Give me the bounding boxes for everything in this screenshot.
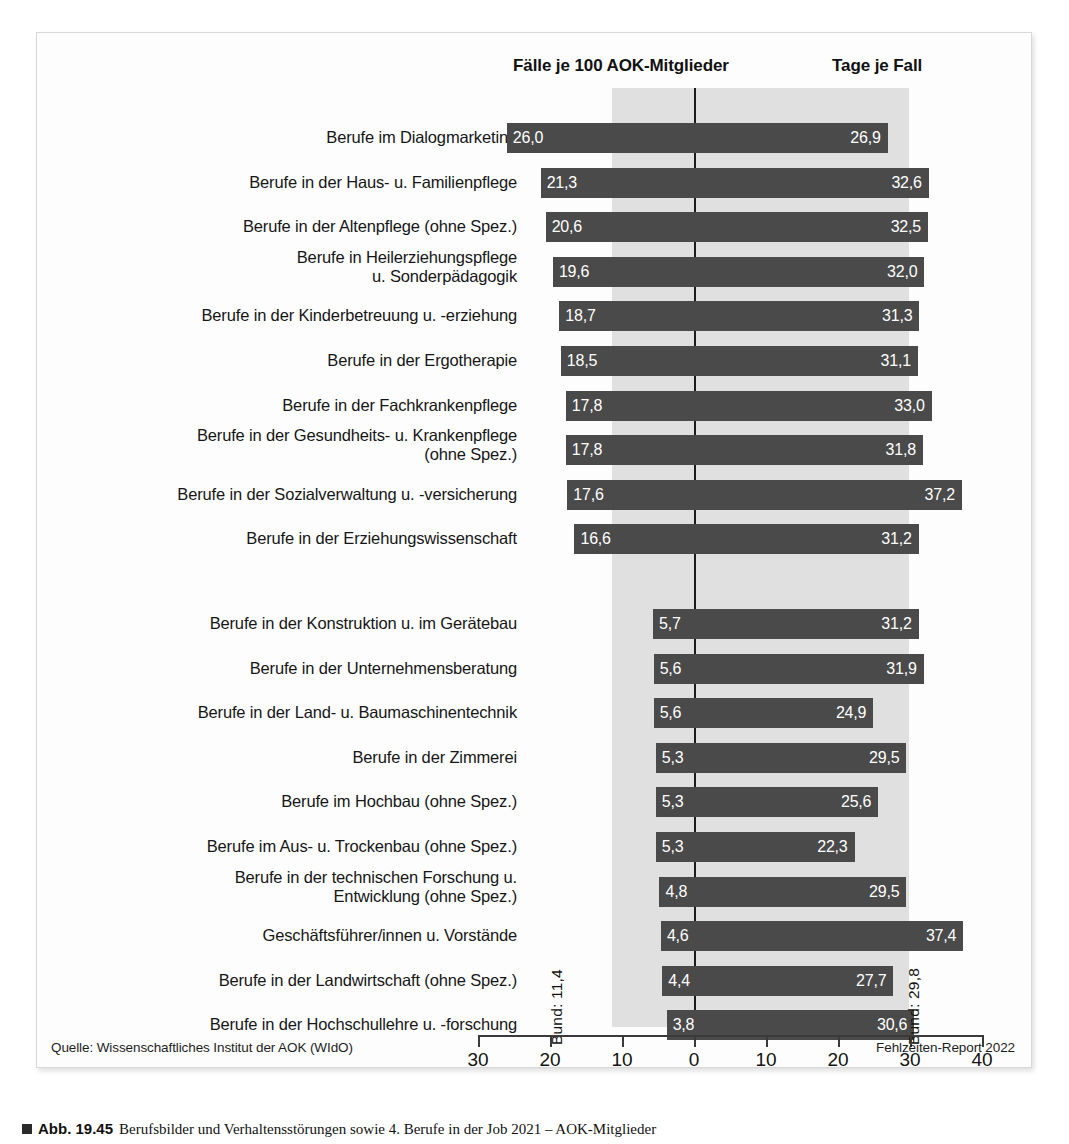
bar-tage: 32,0 bbox=[694, 257, 924, 287]
bar-tage: 33,0 bbox=[694, 391, 932, 421]
bar-faelle: 4,8 bbox=[659, 877, 694, 907]
category-label: Berufe im Aus- u. Trockenbau (ohne Spez.… bbox=[37, 837, 517, 856]
bar-tage: 27,7 bbox=[694, 966, 893, 996]
bar-value-faelle: 4,6 bbox=[667, 927, 689, 945]
bar-tage: 31,9 bbox=[694, 654, 924, 684]
bar-faelle: 18,5 bbox=[561, 346, 694, 376]
category-label: Berufe in der Landwirtschaft (ohne Spez.… bbox=[37, 971, 517, 990]
bar-value-tage: 27,7 bbox=[856, 972, 886, 990]
bar-tage: 24,9 bbox=[694, 698, 873, 728]
bar-value-faelle: 5,3 bbox=[662, 793, 684, 811]
bar-value-faelle: 5,6 bbox=[660, 660, 682, 678]
bar-tage: 31,2 bbox=[694, 609, 919, 639]
bar-tage: 29,5 bbox=[694, 743, 906, 773]
bar-tage: 32,5 bbox=[694, 212, 928, 242]
bar-value-faelle: 18,5 bbox=[567, 352, 597, 370]
bar-value-faelle: 5,3 bbox=[662, 838, 684, 856]
bar-value-tage: 26,9 bbox=[850, 129, 880, 147]
axis-tick bbox=[478, 1035, 480, 1047]
bar-faelle: 5,3 bbox=[656, 832, 694, 862]
category-label: Berufe in der Haus- u. Familienpflege bbox=[37, 173, 517, 192]
bar-faelle: 19,6 bbox=[553, 257, 694, 287]
axis-tick-label: 10 bbox=[611, 1049, 632, 1071]
bar-value-tage: 32,6 bbox=[891, 174, 921, 192]
category-label: Berufe im Dialogmarketing bbox=[37, 128, 517, 147]
bar-value-faelle: 17,6 bbox=[573, 486, 603, 504]
bar-faelle: 26,0 bbox=[507, 123, 694, 153]
category-label: Berufe in der Land- u. Baumaschinentechn… bbox=[37, 703, 517, 722]
bar-tage: 25,6 bbox=[694, 787, 878, 817]
bar-value-tage: 31,1 bbox=[881, 352, 911, 370]
category-label: Berufe im Hochbau (ohne Spez.) bbox=[37, 792, 517, 811]
bar-value-faelle: 4,4 bbox=[668, 972, 690, 990]
bar-value-tage: 31,9 bbox=[886, 660, 916, 678]
caption-number: Abb. 19.45 bbox=[38, 1120, 113, 1137]
report-note: Fehlzeiten-Report 2022 bbox=[876, 1040, 1015, 1055]
bar-value-tage: 22,3 bbox=[817, 838, 847, 856]
bar-value-faelle: 17,8 bbox=[572, 397, 602, 415]
axis-tick-label: 20 bbox=[539, 1049, 560, 1071]
bar-value-tage: 31,8 bbox=[886, 441, 916, 459]
bar-value-tage: 37,2 bbox=[924, 486, 954, 504]
category-label: Berufe in der Konstruktion u. im Geräteb… bbox=[37, 614, 517, 633]
bar-faelle: 5,6 bbox=[654, 654, 694, 684]
bar-value-faelle: 18,7 bbox=[565, 307, 595, 325]
axis-tick bbox=[622, 1035, 624, 1047]
axis-tick-label: 20 bbox=[827, 1049, 848, 1071]
caption-text: Berufsbilder und Verhaltensstörungen sow… bbox=[119, 1121, 656, 1137]
bar-value-tage: 29,5 bbox=[869, 749, 899, 767]
bar-faelle: 21,3 bbox=[541, 168, 694, 198]
bar-tage: 22,3 bbox=[694, 832, 855, 862]
bar-faelle: 18,7 bbox=[559, 301, 694, 331]
bar-faelle: 16,6 bbox=[574, 524, 694, 554]
source-note: Quelle: Wissenschaftliches Institut der … bbox=[51, 1040, 353, 1055]
bar-tage: 31,2 bbox=[694, 524, 919, 554]
bar-value-faelle: 4,8 bbox=[665, 883, 687, 901]
bar-faelle: 17,6 bbox=[567, 480, 694, 510]
bar-tage: 31,8 bbox=[694, 435, 923, 465]
bar-value-faelle: 5,7 bbox=[659, 615, 681, 633]
axis-tick-label: 0 bbox=[689, 1049, 700, 1071]
x-axis: 302010010203040 bbox=[478, 1027, 988, 1041]
figure-panel: Fälle je 100 AOK-Mitglieder Tage je Fall… bbox=[36, 32, 1032, 1068]
caption-square-icon bbox=[22, 1124, 32, 1134]
category-label: Berufe in Heilerziehungspflegeu. Sonderp… bbox=[37, 248, 517, 286]
bar-tage: 26,9 bbox=[694, 123, 888, 153]
bar-value-tage: 25,6 bbox=[841, 793, 871, 811]
bar-value-tage: 31,2 bbox=[881, 530, 911, 548]
bar-faelle: 20,6 bbox=[546, 212, 694, 242]
category-label: Berufe in der Zimmerei bbox=[37, 748, 517, 767]
figure-caption: Abb. 19.45Berufsbilder und Verhaltensstö… bbox=[22, 1120, 1052, 1138]
bar-faelle: 5,6 bbox=[654, 698, 694, 728]
bar-value-tage: 31,2 bbox=[881, 615, 911, 633]
bar-value-tage: 32,5 bbox=[891, 218, 921, 236]
bar-value-faelle: 19,6 bbox=[559, 263, 589, 281]
bar-value-tage: 31,3 bbox=[882, 307, 912, 325]
axis-tick bbox=[694, 1035, 696, 1047]
axis-tick bbox=[766, 1035, 768, 1047]
bar-value-tage: 33,0 bbox=[894, 397, 924, 415]
bar-value-tage: 29,5 bbox=[869, 883, 899, 901]
bar-faelle: 4,4 bbox=[662, 966, 694, 996]
category-label: Berufe in der Kinderbetreuung u. -erzieh… bbox=[37, 306, 517, 325]
category-label: Berufe in der Sozialverwaltung u. -versi… bbox=[37, 485, 517, 504]
bar-value-faelle: 20,6 bbox=[552, 218, 582, 236]
bar-faelle: 17,8 bbox=[566, 391, 694, 421]
bar-value-tage: 24,9 bbox=[836, 704, 866, 722]
bar-value-faelle: 21,3 bbox=[547, 174, 577, 192]
category-label: Berufe in der Erziehungswissenschaft bbox=[37, 529, 517, 548]
category-label: Berufe in der Unternehmensberatung bbox=[37, 659, 517, 678]
axis-tick-label: 10 bbox=[755, 1049, 776, 1071]
category-label: Berufe in der Altenpflege (ohne Spez.) bbox=[37, 217, 517, 236]
bar-value-tage: 37,4 bbox=[926, 927, 956, 945]
bar-value-faelle: 16,6 bbox=[580, 530, 610, 548]
axis-tick bbox=[550, 1035, 552, 1047]
bar-value-faelle: 17,8 bbox=[572, 441, 602, 459]
bar-tage: 31,1 bbox=[694, 346, 918, 376]
bar-faelle: 5,3 bbox=[656, 743, 694, 773]
plot-area: Berufe im Dialogmarketing26,026,9Berufe … bbox=[37, 33, 1033, 1069]
bar-tage: 32,6 bbox=[694, 168, 929, 198]
bar-value-faelle: 26,0 bbox=[513, 129, 543, 147]
bar-value-faelle: 5,3 bbox=[662, 749, 684, 767]
bar-faelle: 5,3 bbox=[656, 787, 694, 817]
